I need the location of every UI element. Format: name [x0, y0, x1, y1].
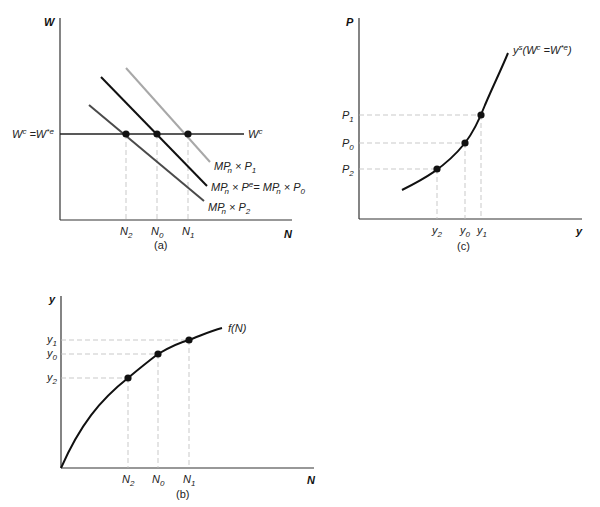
panel-a-point-n2 — [122, 130, 129, 137]
panel-a-point-n1 — [184, 130, 191, 137]
panel-b-tick-n2: N2 — [122, 473, 135, 488]
panel-c-tick-y1: y1 — [476, 224, 487, 239]
panel-c-tick-p1: P1 — [342, 109, 354, 124]
panel-c-tick-p0: P0 — [342, 137, 354, 152]
panel-a-wage-label-left: Wc =W*e — [12, 127, 54, 140]
panel-b-tick-y0: y0 — [46, 347, 58, 362]
panel-b-point-n2 — [124, 374, 131, 381]
panel-b-tick-y2: y2 — [46, 371, 58, 386]
panel-a-label-mp-p1: MPn × P1 — [214, 160, 256, 175]
diagram-canvas: W N Wc =W*e Wc MPn × P1 MPn × Pe= MPn × … — [0, 0, 600, 507]
panel-b-x-axis-label: N — [307, 474, 316, 486]
panel-a-tick-n2: N2 — [120, 225, 133, 240]
panel-a-y-axis-label: W — [44, 16, 56, 28]
panel-b-tick-n1: N1 — [183, 473, 195, 488]
panel-a-label-mp-p0: MPn × Pe= MPn × P0 — [211, 180, 306, 196]
panel-c-x-axis-label: y — [575, 225, 583, 237]
panel-a-point-n0 — [153, 130, 160, 137]
panel-c-tick-p2: P2 — [342, 163, 354, 178]
panel-a-tick-n1: N1 — [182, 225, 194, 240]
panel-b-tick-n0: N0 — [152, 473, 165, 488]
panel-c-caption: (c) — [457, 240, 470, 252]
panel-c-y-axis-label: P — [346, 16, 354, 28]
panel-c-point-y1 — [477, 111, 484, 118]
panel-a-x-axis-label: N — [284, 228, 293, 240]
panel-a-wage-label-right: Wc — [248, 127, 262, 140]
panel-a-curve-mp-p0 — [101, 77, 207, 186]
panel-a-label-mp-p2: MPn × P2 — [208, 201, 251, 216]
panel-b-point-n0 — [154, 350, 161, 357]
panel-c-tick-y2: y2 — [431, 224, 443, 239]
panel-c-tick-y0: y0 — [459, 224, 471, 239]
panel-b-y-axis-label: y — [48, 293, 56, 305]
panel-b-production-function: y N f(N) y1 y0 y2 N2 N0 N1 (b) — [46, 293, 316, 500]
panel-c-aggregate-supply: P y ys(Wc =W*e) P1 P0 P2 y2 y0 y1 (c) — [342, 16, 583, 252]
panel-a-tick-n0: N0 — [151, 225, 164, 240]
panel-a-curve-mp-p2 — [89, 105, 204, 201]
panel-b-curve-label: f(N) — [228, 322, 247, 334]
panel-a-labor-market: W N Wc =W*e Wc MPn × P1 MPn × Pe= MPn × … — [12, 16, 306, 251]
panel-c-point-y0 — [461, 139, 468, 146]
panel-b-tick-y1: y1 — [46, 333, 57, 348]
panel-b-point-n1 — [185, 336, 192, 343]
panel-c-curve-label: ys(Wc =W*e) — [512, 43, 572, 56]
panel-b-production-curve — [61, 328, 222, 468]
panel-c-supply-curve — [402, 53, 508, 190]
panel-b-caption: (b) — [176, 488, 189, 500]
panel-a-caption: (a) — [154, 239, 167, 251]
panel-c-point-y2 — [433, 165, 440, 172]
